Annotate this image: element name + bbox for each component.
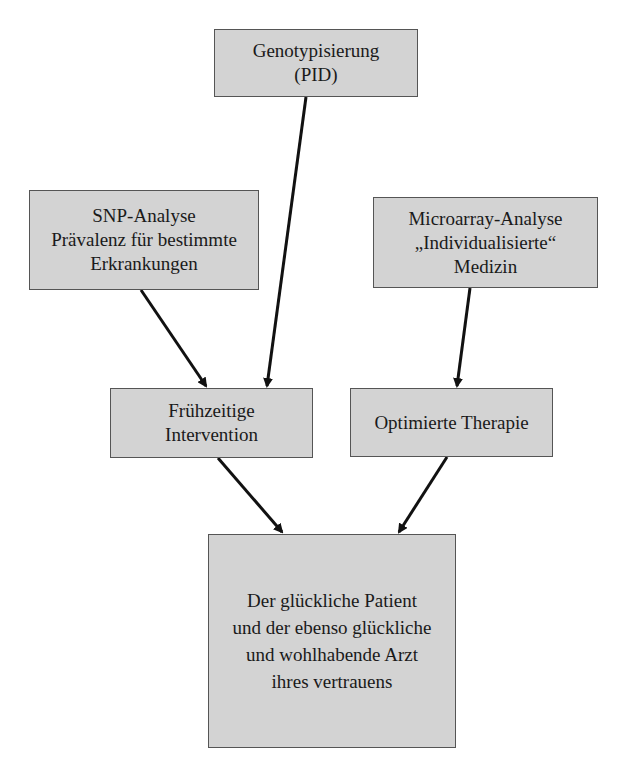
node-label-line: Der glückliche Patient xyxy=(247,587,417,614)
node-happy-patient: Der glückliche Patient und der ebenso gl… xyxy=(208,534,456,748)
node-label-line: und der ebenso glückliche xyxy=(233,614,432,641)
node-label-line: Intervention xyxy=(165,423,258,447)
node-label-line: Frühzeitige xyxy=(168,399,255,423)
node-label-line: und wohlhabende Arzt xyxy=(246,641,418,668)
node-label-line: Microarray-Analyse xyxy=(408,207,562,231)
node-label-line: Erkrankungen xyxy=(90,252,198,276)
node-label-line: Genotypisierung xyxy=(253,39,380,63)
node-microarray-analysis: Microarray-Analyse „Individualisierte“ M… xyxy=(373,197,598,288)
node-label-line: SNP-Analyse xyxy=(92,204,195,228)
flow-diagram: Genotypisierung (PID) SNP-Analyse Präval… xyxy=(0,0,623,782)
arrow-early-to-patient xyxy=(218,458,282,532)
arrow-microarray-to-therapy xyxy=(457,288,470,386)
arrow-therapy-to-patient xyxy=(399,457,447,532)
node-snp-analysis: SNP-Analyse Prävalenz für bestimmte Erkr… xyxy=(29,190,259,290)
node-label-line: Prävalenz für bestimmte xyxy=(51,228,237,252)
node-early-intervention: Frühzeitige Intervention xyxy=(110,388,313,458)
node-label-line: ihres vertrauens xyxy=(272,668,393,695)
node-label-line: (PID) xyxy=(294,63,337,87)
arrow-genotyping-to-early xyxy=(267,97,306,386)
node-label-line: Optimierte Therapie xyxy=(374,411,528,435)
arrow-snp-to-early xyxy=(141,290,206,386)
node-label-line: Medizin xyxy=(454,255,517,279)
node-optimized-therapy: Optimierte Therapie xyxy=(350,388,553,457)
node-genotyping: Genotypisierung (PID) xyxy=(214,29,418,97)
node-label-line: „Individualisierte“ xyxy=(415,231,556,255)
